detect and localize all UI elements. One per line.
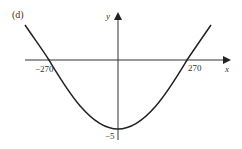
x-tick-pos: 270 <box>188 63 202 73</box>
x-tick-neg: −270 <box>35 64 54 74</box>
y-axis-label: y <box>105 11 110 21</box>
y-tick-min: −5 <box>105 131 115 141</box>
graph: (d) y x −270 270 −5 <box>0 0 242 149</box>
panel-label: (d) <box>12 9 24 21</box>
x-axis-label: x <box>224 64 229 74</box>
